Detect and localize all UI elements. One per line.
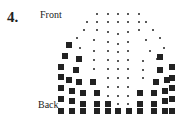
small-dot bbox=[127, 68, 129, 70]
large-square bbox=[105, 101, 111, 107]
small-dot bbox=[117, 13, 119, 15]
small-dot bbox=[107, 59, 109, 61]
small-dot bbox=[117, 60, 119, 62]
large-square bbox=[105, 108, 111, 114]
small-dot bbox=[127, 59, 129, 61]
small-dot bbox=[79, 47, 81, 49]
small-dot bbox=[127, 41, 129, 43]
small-dot bbox=[96, 21, 98, 23]
large-square bbox=[151, 90, 157, 96]
back-label: Back bbox=[38, 99, 59, 110]
large-square bbox=[162, 108, 168, 114]
small-dot bbox=[117, 95, 119, 97]
small-dot bbox=[127, 77, 129, 79]
large-square bbox=[80, 101, 86, 107]
small-dot bbox=[138, 13, 140, 15]
small-dot bbox=[117, 103, 119, 105]
small-dot bbox=[152, 29, 154, 31]
large-square bbox=[76, 56, 82, 62]
small-dot bbox=[142, 60, 144, 62]
large-square bbox=[58, 108, 64, 114]
small-dot bbox=[96, 29, 98, 31]
small-dot bbox=[117, 68, 119, 70]
large-square bbox=[94, 101, 100, 107]
large-square bbox=[76, 79, 82, 85]
small-dot bbox=[142, 69, 144, 71]
large-square bbox=[58, 96, 64, 102]
large-square bbox=[169, 108, 175, 114]
small-dot bbox=[127, 31, 129, 33]
small-dot bbox=[107, 50, 109, 52]
small-dot bbox=[127, 95, 129, 97]
small-dot bbox=[96, 13, 98, 15]
large-square bbox=[162, 98, 168, 104]
small-dot bbox=[86, 21, 88, 23]
small-dot bbox=[145, 39, 147, 41]
large-square bbox=[94, 108, 100, 114]
small-dot bbox=[127, 21, 129, 23]
small-dot bbox=[138, 21, 140, 23]
small-dot bbox=[127, 103, 129, 105]
small-dot bbox=[93, 59, 95, 61]
large-square bbox=[126, 108, 132, 114]
large-square bbox=[157, 54, 163, 60]
large-square bbox=[137, 101, 143, 107]
small-dot bbox=[117, 43, 119, 45]
front-label: Front bbox=[40, 9, 62, 20]
large-square bbox=[169, 96, 175, 102]
large-square bbox=[73, 67, 79, 73]
small-dot bbox=[138, 29, 140, 31]
small-dot bbox=[127, 86, 129, 88]
large-square bbox=[58, 74, 64, 80]
large-square bbox=[157, 67, 163, 73]
large-square bbox=[169, 64, 175, 70]
large-square bbox=[169, 75, 175, 81]
small-dot bbox=[163, 47, 165, 49]
large-square bbox=[80, 108, 86, 114]
large-square bbox=[151, 101, 157, 107]
large-square bbox=[137, 108, 143, 114]
small-dot bbox=[107, 95, 109, 97]
large-square bbox=[90, 79, 96, 85]
small-dot bbox=[93, 50, 95, 52]
small-dot bbox=[93, 39, 95, 41]
small-dot bbox=[142, 77, 144, 79]
large-square bbox=[115, 108, 121, 114]
small-dot bbox=[117, 21, 119, 23]
small-dot bbox=[127, 13, 129, 15]
small-dot bbox=[145, 21, 147, 23]
large-square bbox=[169, 85, 175, 91]
large-square bbox=[94, 90, 100, 96]
small-dot bbox=[107, 21, 109, 23]
small-dot bbox=[117, 86, 119, 88]
small-dot bbox=[107, 68, 109, 70]
large-square bbox=[69, 98, 75, 104]
small-dot bbox=[117, 77, 119, 79]
large-square bbox=[137, 90, 143, 96]
small-dot bbox=[83, 29, 85, 31]
small-dot bbox=[159, 37, 161, 39]
large-square bbox=[66, 77, 72, 83]
figure-number: 4. bbox=[7, 9, 18, 26]
large-square bbox=[58, 85, 64, 91]
small-dot bbox=[149, 50, 151, 52]
large-square bbox=[69, 108, 75, 114]
large-square bbox=[162, 88, 168, 94]
small-dot bbox=[76, 37, 78, 39]
large-square bbox=[58, 64, 64, 70]
large-square bbox=[151, 108, 157, 114]
small-dot bbox=[117, 51, 119, 53]
small-dot bbox=[107, 86, 109, 88]
small-dot bbox=[117, 33, 119, 35]
large-square bbox=[66, 42, 72, 48]
small-dot bbox=[107, 41, 109, 43]
large-square bbox=[62, 53, 68, 59]
small-dot bbox=[107, 31, 109, 33]
large-square bbox=[80, 90, 86, 96]
small-dot bbox=[107, 13, 109, 15]
large-square bbox=[69, 88, 75, 94]
large-square bbox=[153, 79, 159, 85]
small-dot bbox=[107, 77, 109, 79]
small-dot bbox=[93, 68, 95, 70]
small-dot bbox=[127, 50, 129, 52]
